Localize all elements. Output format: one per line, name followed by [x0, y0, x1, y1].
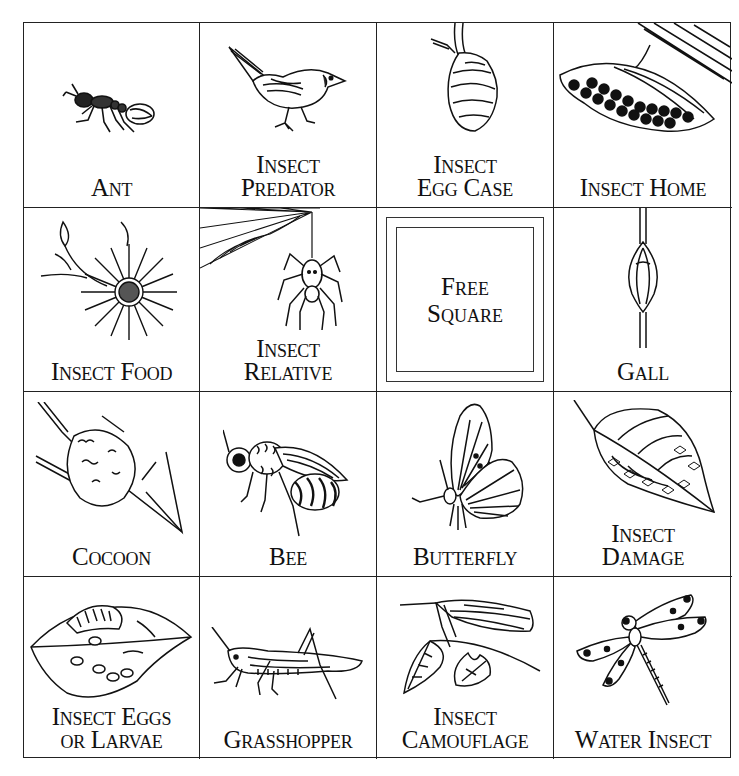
square-butterfly[interactable]: Butterfly [377, 392, 554, 577]
square-label: Insect Camouflage [377, 705, 553, 751]
square-bee[interactable]: Bee [200, 392, 377, 577]
cocoon-icon [32, 402, 192, 542]
egg-case-icon [425, 23, 505, 138]
square-label: Cocoon [24, 545, 199, 568]
square-cocoon[interactable]: Cocoon [24, 392, 200, 577]
bingo-card: Ant Insect Predator [23, 22, 731, 758]
square-free[interactable]: Free Square [377, 208, 554, 392]
flower-icon [37, 214, 187, 354]
camouflage-katydid-icon [380, 597, 550, 707]
gall-icon [618, 208, 668, 348]
square-insect-camouflage[interactable]: Insect Camouflage [377, 577, 554, 759]
square-gall[interactable]: Gall [554, 208, 732, 392]
ant-icon [62, 78, 162, 138]
free-square-label: Free Square [427, 273, 503, 327]
square-water-insect[interactable]: Water Insect [554, 577, 732, 759]
square-label: Water Insect [554, 728, 732, 751]
spider-icon [200, 208, 344, 338]
square-grasshopper[interactable]: Grasshopper [200, 577, 377, 759]
square-insect-predator[interactable]: Insect Predator [200, 23, 377, 208]
square-label: Insect Egg Case [377, 153, 553, 199]
square-label: Insect Damage [554, 522, 732, 568]
square-label: Ant [24, 176, 199, 199]
bird-icon [223, 41, 353, 136]
square-ant[interactable]: Ant [24, 23, 200, 208]
square-label: Gall [554, 360, 732, 383]
square-label: Insect Home [554, 176, 732, 199]
square-label: Insect Predator [200, 153, 376, 199]
butterfly-icon [400, 400, 530, 535]
square-label: Butterfly [377, 545, 553, 568]
square-insect-damage[interactable]: Insect Damage [554, 392, 732, 577]
square-label: Insect Relative [200, 337, 376, 383]
damaged-leaf-icon [568, 400, 718, 520]
free-square-frame: Free Square [386, 217, 544, 382]
free-square-inner-frame: Free Square [396, 227, 534, 372]
square-label: Insect Eggs or Larvae [24, 705, 199, 751]
square-insect-relative[interactable]: Insect Relative [200, 208, 377, 392]
dragonfly-icon [573, 593, 713, 708]
bee-icon [223, 426, 353, 546]
square-label: Grasshopper [200, 728, 376, 751]
grasshopper-icon [208, 627, 368, 707]
wasp-nest-icon [554, 23, 732, 143]
square-insect-home[interactable]: Insect Home [554, 23, 732, 208]
square-label: Insect Food [24, 360, 199, 383]
square-insect-food[interactable]: Insect Food [24, 208, 200, 392]
larvae-leaf-icon [27, 597, 197, 702]
square-label: Bee [200, 545, 376, 568]
square-insect-egg-case[interactable]: Insect Egg Case [377, 23, 554, 208]
square-insect-eggs-or-larvae[interactable]: Insect Eggs or Larvae [24, 577, 200, 759]
